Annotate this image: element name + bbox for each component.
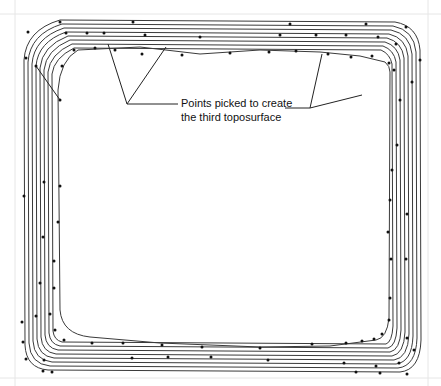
annotation-line-1: Points picked to create xyxy=(181,97,292,109)
survey-points xyxy=(21,21,422,376)
contour-diagram xyxy=(0,0,441,386)
contour-lines xyxy=(24,20,421,372)
scan-bleed xyxy=(0,0,441,386)
annotation-line-2: the third toposurface xyxy=(181,111,281,123)
